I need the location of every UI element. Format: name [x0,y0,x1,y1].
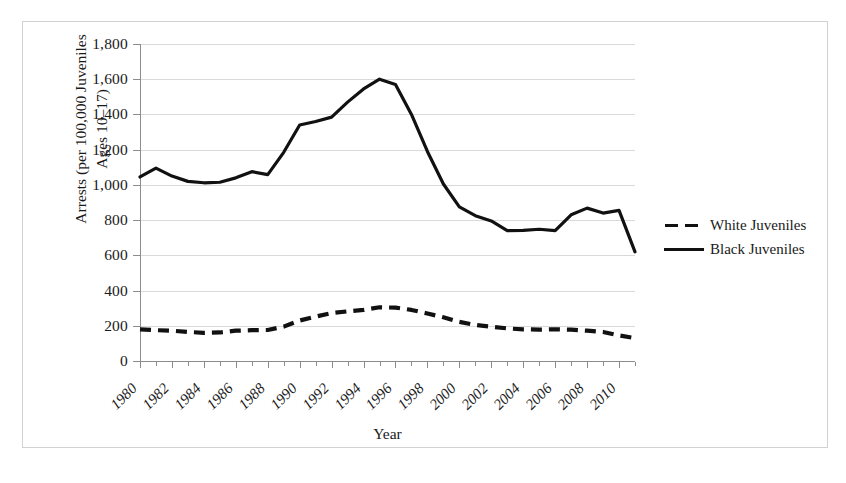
x-tick-2007 [571,362,572,366]
plot-area [140,44,635,361]
y-tick-0 [133,361,140,362]
x-tick-label-1986: 1986 [204,381,236,413]
y-tick-1000 [133,185,140,186]
y-tick-400 [133,291,140,292]
gridline-200 [140,326,635,327]
x-tick-label-2006: 2006 [523,381,555,413]
y-tick-1600 [133,79,140,80]
x-tick-1987 [252,362,253,366]
y-tick-600 [133,255,140,256]
x-tick-2005 [539,362,540,366]
gridline-800 [140,220,635,221]
y-tick-label-200: 200 [68,318,128,334]
x-tick-label-1994: 1994 [332,381,364,413]
legend-item-white-juveniles[interactable]: White Juveniles [664,213,824,237]
y-tick-800 [133,220,140,221]
x-tick-label-2008: 2008 [555,381,587,413]
gridline-600 [140,255,635,256]
y-tick-label-400: 400 [68,283,128,299]
x-tick-label-1984: 1984 [172,381,204,413]
y-tick-1800 [133,44,140,45]
y-axis-line [140,44,141,362]
x-tick-1995 [380,362,381,366]
y-axis-title-line-2: Ages 10–17) [92,0,113,279]
gridlines [140,44,635,361]
legend: White Juveniles Black Juveniles [664,213,824,261]
x-tick-label-1988: 1988 [236,381,268,413]
x-tick-label-1982: 1982 [140,381,172,413]
gridline-1000 [140,185,635,186]
x-axis-tick-labels: 1980198219841986198819901992199419961998… [140,368,660,424]
x-tick-2001 [475,362,476,366]
x-tick-label-2010: 2010 [587,381,619,413]
x-tick-label-1998: 1998 [395,381,427,413]
gridline-1400 [140,114,635,115]
x-tick-1983 [188,362,189,366]
x-tick-label-1996: 1996 [363,381,395,413]
x-tick-label-1992: 1992 [300,381,332,413]
x-tick-label-2000: 2000 [427,381,459,413]
gridline-1200 [140,150,635,151]
x-tick-label-2002: 2002 [459,381,491,413]
y-tick-200 [133,326,140,327]
y-axis-title-line-1: Arrests (per 100,000 Juveniles [71,0,92,279]
y-axis-title: Arrests (per 100,000 Juveniles Ages 10–1… [71,0,113,279]
gridline-1800 [140,44,635,45]
x-axis-title: Year [140,425,635,443]
figure-root: 1,8001,6001,4001,2001,0008006004002000 A… [0,0,846,483]
legend-label-black-juveniles: Black Juveniles [710,241,805,258]
x-tick-2009 [603,362,604,366]
legend-swatch-dashed-icon [664,218,704,232]
x-tick-label-2004: 2004 [491,381,523,413]
x-tick-1985 [220,362,221,366]
y-tick-1200 [133,150,140,151]
gridline-400 [140,291,635,292]
y-tick-label-0: 0 [68,353,128,369]
x-tick-1989 [284,362,285,366]
x-tick-1997 [411,362,412,366]
y-tick-1400 [133,114,140,115]
x-tick-2003 [507,362,508,366]
x-tick-1981 [156,362,157,366]
legend-swatch-solid-icon [664,242,704,256]
y-axis-title-wrapper: Arrests (per 100,000 Juveniles Ages 10–1… [60,20,61,21]
x-tick-1991 [316,362,317,366]
x-tick-label-1990: 1990 [268,381,300,413]
x-tick-1993 [348,362,349,366]
legend-item-black-juveniles[interactable]: Black Juveniles [664,237,824,261]
gridline-1600 [140,79,635,80]
x-tick-2011 [635,362,636,366]
legend-label-white-juveniles: White Juveniles [710,217,806,234]
x-tick-1999 [443,362,444,366]
